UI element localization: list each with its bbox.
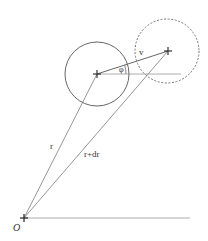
center-cross-icon [93,70,101,78]
phi-label: φ [119,65,124,74]
vector-v [97,51,168,74]
origin-label: O [13,222,20,233]
v-label: v [139,47,144,57]
phi-angle-arc [125,65,126,74]
r-label: r [50,141,53,151]
diagram-canvas: O r r+dr v φ [0,0,208,241]
r-plus-dr-label: r+dr [84,149,100,159]
